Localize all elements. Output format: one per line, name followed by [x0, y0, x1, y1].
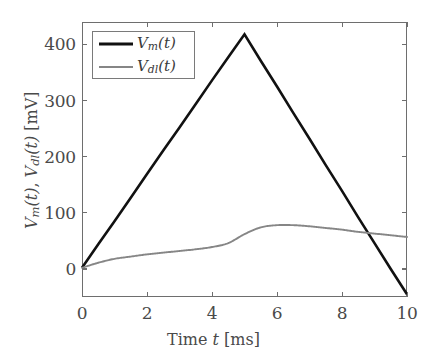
y-axis-label-arg2: (t) — [22, 136, 41, 155]
y-axis-label-sub2: dl — [28, 155, 42, 166]
y-tick-left — [82, 212, 87, 213]
x-tick-label: 6 — [272, 303, 283, 323]
legend-label-vdl-arg: (t) — [158, 57, 176, 75]
chart-legend: Vm(t) Vdl(t) — [92, 31, 195, 79]
x-tick-top — [147, 22, 148, 27]
chart-figure: 02468100100200300400 Time t [ms] Vm(t), … — [0, 0, 427, 360]
legend-swatch-vdl — [99, 63, 133, 71]
x-tick-label: 10 — [396, 303, 417, 323]
x-tick-label: 2 — [142, 303, 153, 323]
x-tick-label: 8 — [337, 303, 348, 323]
x-axis-label-unit: [ms] — [224, 330, 260, 349]
y-tick-left — [82, 100, 87, 101]
y-tick-right — [402, 100, 407, 101]
y-axis-label: Vm(t), Vdl(t) [mV] — [22, 30, 43, 290]
legend-item-vdl: Vdl(t) — [93, 55, 194, 79]
y-axis-label-unit: [mV] — [22, 92, 41, 131]
x-tick-top — [342, 22, 343, 27]
y-tick-right — [402, 156, 407, 157]
y-tick-left — [82, 44, 87, 45]
y-axis-label-sep: , — [22, 177, 41, 187]
x-tick-bottom — [277, 292, 278, 297]
y-tick-right — [402, 44, 407, 45]
legend-swatch-vm — [99, 40, 133, 48]
legend-label-vm-arg: (t) — [158, 34, 176, 52]
x-tick-bottom — [407, 292, 408, 297]
legend-label-vm-sub: m — [148, 41, 158, 54]
y-axis-label-var2: V — [22, 166, 41, 178]
y-tick-left — [82, 268, 87, 269]
legend-label-vm-var: V — [137, 34, 148, 52]
x-tick-label: 4 — [207, 303, 218, 323]
x-tick-label: 0 — [77, 303, 88, 323]
legend-label-vdl-sub: dl — [148, 64, 158, 77]
x-tick-bottom — [82, 292, 83, 297]
legend-label-vdl: Vdl(t) — [137, 57, 176, 76]
y-tick-left — [82, 156, 87, 157]
x-tick-bottom — [147, 292, 148, 297]
y-axis-label-arg1: (t) — [22, 188, 41, 207]
x-tick-bottom — [212, 292, 213, 297]
x-axis-label: Time t [ms] — [0, 330, 427, 349]
x-axis-label-main: Time — [167, 330, 207, 349]
legend-item-vm: Vm(t) — [93, 32, 194, 56]
y-tick-right — [402, 268, 407, 269]
x-tick-bottom — [342, 292, 343, 297]
legend-label-vdl-var: V — [137, 57, 148, 75]
legend-line-vdl — [99, 63, 133, 71]
y-axis-label-sub1: m — [28, 207, 42, 218]
x-tick-top — [212, 22, 213, 27]
y-axis-label-var1: V — [22, 217, 41, 229]
x-tick-top — [277, 22, 278, 27]
series-line-vdl — [82, 225, 407, 268]
legend-label-vm: Vm(t) — [137, 34, 176, 53]
x-tick-top — [407, 22, 408, 27]
x-tick-top — [82, 22, 83, 27]
y-tick-right — [402, 212, 407, 213]
legend-line-vm — [99, 40, 133, 48]
